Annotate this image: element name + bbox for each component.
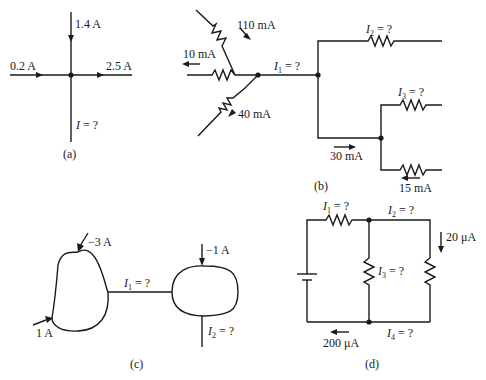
panel-c: −3 A 1 A −1 A I1 = ? I2 = ? (c) [33, 233, 238, 371]
wire-30ma [318, 75, 381, 138]
caption-b: (b) [314, 179, 328, 193]
current-label-i2: I2 = ? [365, 22, 392, 38]
arrow-3a-shaft [80, 233, 88, 246]
current-label-20ua: 20 μA [446, 230, 476, 244]
arrow-1a-shaft [33, 320, 46, 325]
current-label-110ma: 110 mA [237, 18, 276, 32]
kirchhoff-current-figure: 1.4 A 0.2 A 2.5 A I = ? (a) [0, 0, 486, 380]
caption-d: (d) [365, 357, 379, 371]
current-label-left: 0.2 A [10, 59, 36, 73]
current-label-minus1a: −1 A [206, 243, 230, 257]
current-label-i4: I4 = ? [386, 326, 413, 342]
current-label-minus3a: −3 A [88, 235, 112, 249]
arrow-diagonal-icon [228, 109, 236, 117]
current-label-i2: I2 = ? [387, 203, 414, 219]
arrow-down-icon [199, 258, 205, 266]
current-label-10ma: 10 mA [183, 47, 216, 61]
resistor-15ma-branch [381, 138, 442, 175]
right-closed-surface [172, 266, 238, 316]
arrow-down-icon [438, 246, 444, 253]
arrow-right-icon [36, 72, 43, 78]
current-label-1a: 1 A [36, 326, 53, 340]
panel-b: 110 mA 10 mA 40 mA I1 = ? I2 = ? I3 = ? … [182, 10, 442, 195]
arrow-right-icon [97, 72, 104, 78]
resistor-left-branch [187, 70, 258, 80]
current-label-i2: I2 = ? [207, 324, 234, 340]
current-label-top: 1.4 A [75, 17, 101, 31]
panel-d: I1 = ? I2 = ? I3 = ? I4 = ? 20 μA 200 μA… [297, 199, 476, 371]
current-label-30ma: 30 mA [330, 149, 363, 163]
arrow-left-icon [182, 61, 189, 67]
caption-c: (c) [130, 357, 143, 371]
arrow-down-icon [68, 35, 74, 42]
junction-node [68, 72, 73, 77]
panel-a: 1.4 A 0.2 A 2.5 A I = ? (a) [10, 12, 132, 161]
resistor-i2-branch [318, 36, 442, 75]
unknown-current-label: I = ? [75, 118, 98, 132]
current-label-i3: I3 = ? [397, 85, 424, 101]
resistor-i1-top-wire [307, 215, 369, 274]
current-label-right: 2.5 A [106, 59, 132, 73]
resistor-upper-branch [196, 10, 235, 75]
left-closed-surface [52, 250, 108, 331]
resistor-lower-branch [198, 75, 258, 136]
current-label-200ua: 200 μA [323, 336, 359, 350]
current-label-i3: I3 = ? [377, 264, 404, 280]
arrow-left-icon [330, 329, 337, 335]
resistor-i3-branch [381, 100, 442, 138]
junction-node [255, 72, 260, 77]
caption-a: (a) [63, 147, 76, 161]
current-label-i1: I1 = ? [322, 199, 349, 215]
junction-node [366, 319, 371, 324]
resistor-i3 [364, 220, 374, 322]
resistor-right [425, 258, 435, 322]
current-label-i1: I1 = ? [123, 276, 150, 292]
current-label-i1: I1 = ? [273, 59, 300, 75]
current-label-15ma: 15 mA [399, 181, 432, 195]
arrow-diagonal-icon [243, 33, 251, 40]
current-label-40ma: 40 mA [238, 107, 271, 121]
junction-node [366, 217, 371, 222]
wire-i2 [369, 220, 430, 258]
